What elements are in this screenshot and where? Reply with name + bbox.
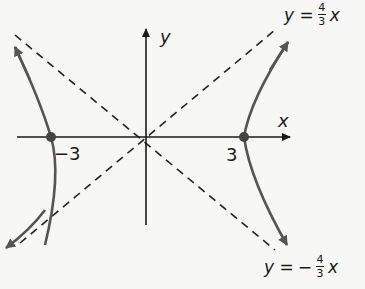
vertex-right <box>239 132 249 142</box>
equation-lhs: y = <box>264 257 294 277</box>
asymptote-negative-label: y = − 4 3 x <box>264 254 338 279</box>
fraction: 4 3 <box>318 2 326 27</box>
minus-sign: − <box>298 257 312 277</box>
right-branch-top-arrow <box>270 42 288 70</box>
vertex-right-label: 3 <box>226 144 237 165</box>
asymptote-positive-label: y = 4 3 x <box>284 2 340 27</box>
left-branch-bottom-arrow <box>6 210 45 248</box>
numerator: 4 <box>316 254 323 265</box>
numerator: 4 <box>318 2 325 13</box>
hyperbola-left-branch <box>15 47 55 245</box>
fraction: 4 3 <box>316 254 324 279</box>
left-branch-top-arrow <box>15 47 30 80</box>
vertex-left <box>46 132 56 142</box>
equation-var: x <box>328 257 338 277</box>
x-axis-label: x <box>278 110 289 131</box>
equation-var: x <box>330 5 340 25</box>
denominator: 3 <box>318 16 325 27</box>
denominator: 3 <box>316 268 323 279</box>
hyperbola-diagram: y x −3 3 y = 4 3 x y = − 4 3 x <box>0 0 365 289</box>
equation-lhs: y = <box>284 5 314 25</box>
hyperbola-right-branch <box>244 42 288 245</box>
y-axis-label: y <box>160 26 171 47</box>
vertex-left-label: −3 <box>54 143 81 164</box>
